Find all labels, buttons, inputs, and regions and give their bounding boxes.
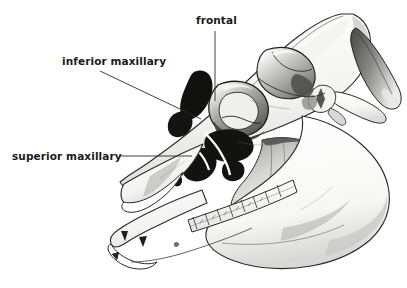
label-inferior-maxillary: inferior maxillary — [62, 55, 166, 67]
label-frontal: frontal — [196, 14, 237, 26]
skull-illustration — [0, 0, 407, 288]
incisor-tooth — [139, 236, 147, 247]
label-superior-maxillary: superior maxillary — [12, 150, 122, 162]
jaw-foramen-mark — [174, 242, 179, 247]
anatomical-figure: frontal inferior maxillary superior maxi… — [0, 0, 407, 288]
post-glenoid-process — [328, 108, 346, 125]
